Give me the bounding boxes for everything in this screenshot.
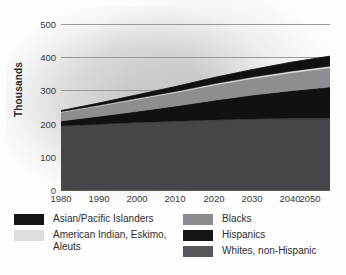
y-tick-label-500: 500 — [22, 19, 56, 30]
y-tick-label-300: 300 — [22, 85, 56, 96]
area-series-whites-non-hispanic — [61, 119, 330, 190]
legend-item-american-indian-eskimo-aleuts: American Indian, Eskimo, Aleuts — [14, 229, 184, 252]
x-tick-label-2030: 2030 — [232, 193, 272, 204]
chart-legend: Asian/Pacific Islanders American Indian,… — [0, 213, 346, 275]
legend-item-blacks: Blacks — [183, 213, 346, 225]
chart-page: Thousands 500 400 300 200 100 0 1980 199… — [0, 0, 346, 275]
legend-swatch-whites-non-hispanic — [183, 246, 213, 257]
x-tick-label-2010: 2010 — [155, 193, 195, 204]
y-tick-label-100: 100 — [22, 152, 56, 163]
y-tick-label-400: 400 — [22, 52, 56, 63]
legend-swatch-american-indian-eskimo-aleuts — [14, 230, 44, 241]
legend-label-hispanics: Hispanics — [222, 229, 265, 241]
x-tick-label-2020: 2020 — [194, 193, 234, 204]
y-tick-label-200: 200 — [22, 119, 56, 130]
stacked-area-chart — [61, 24, 330, 190]
legend-label-whites-non-hispanic: Whites, non-Hispanic — [222, 245, 316, 257]
x-tick-label-1980: 1980 — [41, 193, 81, 204]
plot-area — [61, 24, 330, 190]
legend-swatch-asian-pacific-islanders — [14, 214, 44, 225]
legend-swatch-hispanics — [183, 230, 213, 241]
legend-label-american-indian-eskimo-aleuts: American Indian, Eskimo, Aleuts — [53, 229, 184, 252]
legend-column-right: Blacks Hispanics Whites, non-Hispanic — [183, 213, 346, 261]
legend-item-whites-non-hispanic: Whites, non-Hispanic — [183, 245, 346, 257]
legend-label-blacks: Blacks — [222, 213, 251, 225]
x-tick-label-2050: 2050 — [290, 193, 330, 204]
legend-item-hispanics: Hispanics — [183, 229, 346, 241]
legend-swatch-blacks — [183, 214, 213, 225]
legend-column-left: Asian/Pacific Islanders American Indian,… — [14, 213, 184, 256]
x-tick-label-2000: 2000 — [117, 193, 157, 204]
axis-line-x — [61, 190, 330, 191]
x-tick-label-1990: 1990 — [79, 193, 119, 204]
legend-item-asian-pacific-islanders: Asian/Pacific Islanders — [14, 213, 184, 225]
legend-label-asian-pacific-islanders: Asian/Pacific Islanders — [53, 213, 154, 225]
